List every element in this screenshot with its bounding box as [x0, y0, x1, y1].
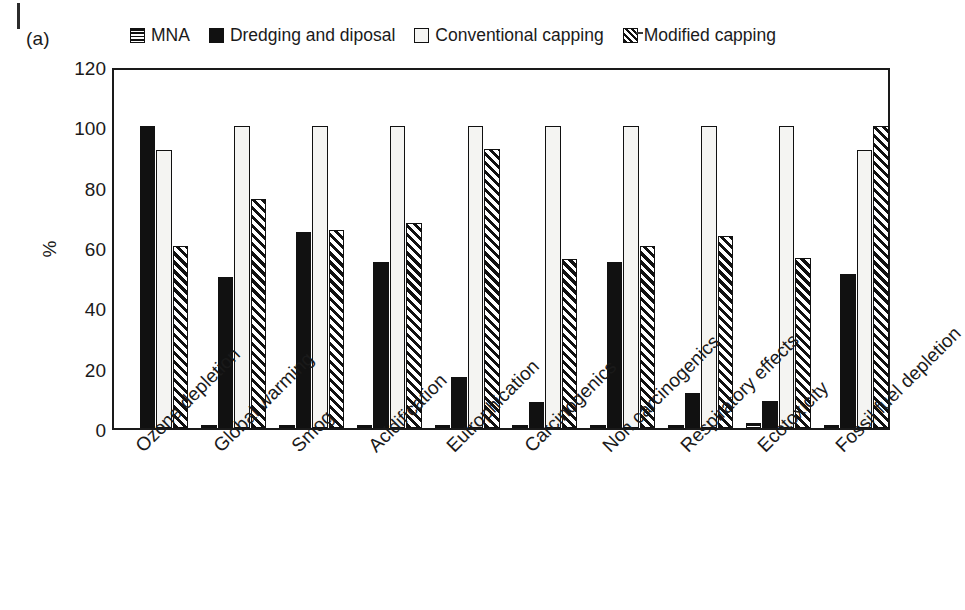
x-tick-label: Fossil fuel depletion: [832, 323, 964, 455]
x-tick-label: Smog: [288, 407, 337, 456]
x-tick-label: Acidification: [365, 370, 450, 455]
x-tick-label: Ecotoxicity: [754, 378, 832, 456]
